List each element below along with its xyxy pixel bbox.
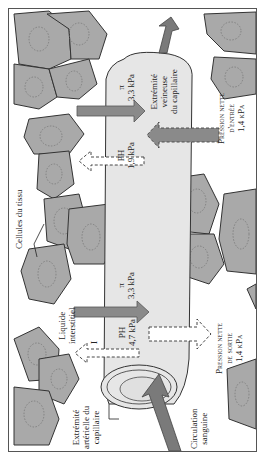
capillary-exchange-diagram: .cell { fill: #a9a9a9; stroke: #333; str… bbox=[8, 8, 257, 452]
net-out-pressure-label: Pression nette de sortie 1,4 kPa bbox=[214, 323, 244, 374]
arterial-pi-label: π 3,3 kPa bbox=[116, 272, 136, 299]
blood-flow-label: Circulation sanguine bbox=[189, 409, 209, 450]
venous-end-label: Extrémité veineuse du capillaire bbox=[149, 69, 179, 114]
net-in-pressure-label: Pression nette d'entrée 1,4 kPa bbox=[216, 93, 246, 144]
venous-ph-label: PH 1,9 kPa bbox=[116, 142, 136, 169]
interstitial-symbol: I bbox=[89, 341, 99, 344]
tissue-cells-label: Cellules du tissu bbox=[14, 189, 24, 249]
blood-flow-out-arrow bbox=[159, 17, 179, 53]
interstitial-fluid-label: Liquide interstitiel bbox=[57, 308, 77, 345]
venous-pi-label: π 3,3 kPa bbox=[116, 74, 136, 101]
arterial-ph-label: PH 4,7 kPa bbox=[117, 319, 137, 346]
arterial-end-label: Extrémité artérielle du capillaire bbox=[71, 406, 101, 449]
